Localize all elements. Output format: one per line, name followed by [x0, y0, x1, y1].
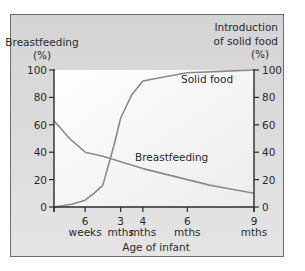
x-tick-label-bottom: weeks — [69, 226, 102, 238]
x-tick-label-bottom: mths — [130, 226, 156, 238]
right-axis-title-line3: (%) — [251, 48, 269, 60]
left-tick-label: 60 — [34, 119, 47, 131]
left-axis-title-line2: (%) — [33, 49, 51, 61]
right-axis-title-line1: Introduction — [214, 21, 278, 33]
solid-food-annotation: Solid food — [181, 73, 233, 85]
right-tick-label: 20 — [262, 174, 275, 186]
x-tick-label-bottom: mths — [241, 226, 267, 238]
right-tick-label: 0 — [262, 201, 269, 213]
left-axis-title-line1: Breastfeeding — [5, 36, 78, 48]
x-ticks: 6weeks3mths4mths6mths9mths — [54, 207, 267, 238]
right-axis-title-line2: of solid food — [214, 35, 278, 47]
right-tick-label: 80 — [262, 91, 275, 103]
right-tick-label: 100 — [262, 64, 282, 76]
left-tick-label: 40 — [34, 146, 47, 158]
breastfeeding-annotation: Breastfeeding — [135, 151, 208, 163]
right-tick-label: 60 — [262, 119, 275, 131]
left-tick-label: 20 — [34, 174, 47, 186]
left-tick-label: 100 — [27, 64, 47, 76]
x-tick-label-bottom: mths — [174, 226, 200, 238]
chart-svg: 002020404060608080100100 6weeks3mths4mth… — [0, 0, 305, 271]
plot-area — [54, 70, 254, 207]
left-tick-label: 80 — [34, 91, 47, 103]
left-tick-label: 0 — [40, 201, 47, 213]
x-axis-title: Age of infant — [122, 241, 190, 253]
right-tick-label: 40 — [262, 146, 275, 158]
